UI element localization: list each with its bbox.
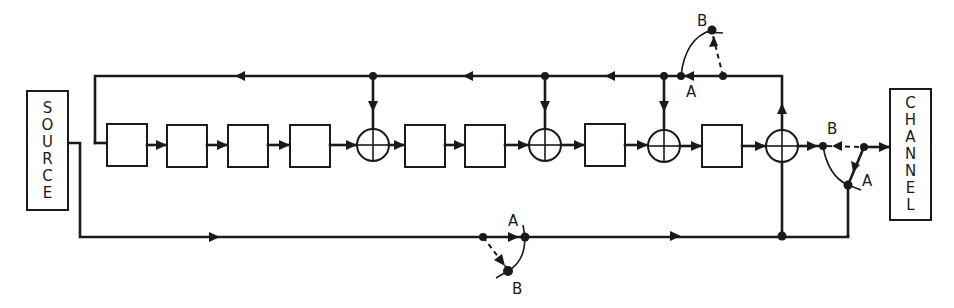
output-switch[interactable]: B A: [819, 120, 890, 236]
xor-adder-3: [648, 130, 680, 162]
bottom-switch[interactable]: A B: [479, 212, 530, 298]
encoder-diagram: B A: [0, 0, 954, 308]
top-switch[interactable]: B A: [677, 12, 727, 101]
xor-adder-1: [357, 129, 389, 161]
register-stage-7: [585, 124, 625, 166]
register-stage-8: [702, 125, 742, 167]
bottom-switch-label-a: A: [508, 212, 519, 230]
source-label: S O U R C E: [27, 91, 68, 210]
register-stage-6: [465, 125, 505, 167]
register-stage-4: [290, 125, 330, 167]
register-stage-1: [107, 124, 147, 166]
output-switch-label-a: A: [862, 172, 873, 190]
bottom-switch-label-b: B: [512, 280, 522, 298]
register-stage-2: [167, 125, 207, 167]
xor-adder-2: [529, 129, 561, 161]
channel-label: C H A N N E L: [890, 89, 931, 220]
register-row: [95, 124, 822, 236]
top-switch-label-b: B: [697, 12, 707, 30]
feedback-taps: [368, 72, 669, 129]
register-stage-5: [405, 125, 445, 167]
xor-adder-4: [766, 130, 798, 162]
top-switch-label-a: A: [686, 83, 697, 101]
output-switch-label-b: B: [827, 120, 837, 138]
register-stage-3: [228, 125, 268, 167]
